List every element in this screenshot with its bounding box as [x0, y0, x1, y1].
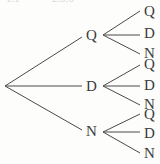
leaf-nq: Q — [144, 107, 155, 122]
leaf-dq: Q — [144, 57, 155, 72]
node-level1-q: Q — [86, 28, 97, 43]
leaf-qd: D — [144, 26, 155, 41]
tree-diagram-figure: Q D N Q D N Q D N Q D N 1.1 2.9.0 — [0, 0, 160, 164]
leaf-dd: D — [144, 78, 155, 93]
branch-root-to-q — [5, 37, 82, 86]
branch-n-to-n — [103, 132, 140, 153]
branch-d-to-q — [103, 65, 140, 86]
branch-n-to-q — [103, 114, 140, 132]
leaf-nn: N — [144, 146, 155, 161]
node-level1-n: N — [86, 124, 97, 139]
branch-q-to-q — [103, 11, 140, 35]
branch-q-to-n — [103, 35, 140, 54]
node-level1-d: D — [86, 79, 97, 94]
tree-branch-lines — [0, 0, 160, 164]
branch-d-to-n — [103, 86, 140, 105]
leaf-nd: D — [144, 126, 155, 141]
branch-root-to-n — [5, 86, 82, 130]
leaf-qq: Q — [144, 4, 155, 19]
